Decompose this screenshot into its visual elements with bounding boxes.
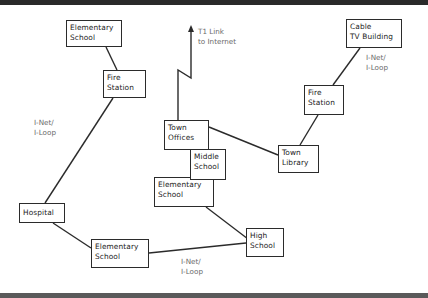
t1-link-line [178,30,191,120]
node-town-offices: TownOffices [164,120,209,150]
node-elem-bottom: ElementarySchool [91,239,149,268]
label-inet-bottom: I-Net/I-Loop [181,257,203,277]
node-label: Hospital [23,208,61,218]
node-label: Fire [308,88,340,98]
link-elem-top-fire-left [106,47,117,70]
node-label: Elementary [158,180,210,190]
label-line: I-Net/ [181,257,203,267]
label-line: I-Loop [366,63,388,73]
label-line: I-Loop [34,128,56,138]
arrow-up-icon [188,25,194,32]
node-fire-left: FireStation [103,70,146,98]
node-label: School [95,252,145,262]
node-label: Station [107,83,142,93]
node-high-school: HighSchool [246,228,284,257]
node-label: TV Building [350,32,398,42]
link-fire-left-hospital [45,98,113,203]
label-line: to Internet [198,37,236,47]
node-hospital: Hospital [19,203,65,223]
node-label: Offices [168,133,205,143]
node-cable-tv: CableTV Building [346,19,402,48]
node-label: Elementary [70,23,118,33]
link-elem-center-high-school [206,207,248,239]
node-label: Library [282,158,315,168]
node-label: Middle [194,152,222,162]
node-elem-top: ElementarySchool [66,20,122,47]
label-t1-link: T1 Linkto Internet [198,27,236,47]
node-elem-center: ElementarySchool [154,177,214,207]
label-line: T1 Link [198,27,236,37]
link-town-library-fire-right [300,115,318,145]
node-label: Town [282,148,315,158]
label-inet-right: I-Net/I-Loop [366,53,388,73]
node-label: Town [168,123,205,133]
node-label: Station [308,98,340,108]
node-label: School [194,162,222,172]
label-inet-left: I-Net/I-Loop [34,118,56,138]
node-town-library: TownLibrary [278,145,319,173]
label-line: I-Net/ [34,118,56,128]
link-fire-right-cable-tv [333,48,360,85]
node-label: Cable [350,22,398,32]
node-label: High [250,231,280,241]
link-elem-bottom-high-school [149,243,246,253]
node-label: Fire [107,73,142,83]
node-fire-right: FireStation [304,85,344,115]
link-hospital-elem-bottom [53,223,91,248]
label-line: I-Net/ [366,53,388,63]
label-line: I-Loop [181,267,203,277]
node-label: School [250,241,280,251]
node-label: School [158,190,210,200]
bottom-border [0,293,428,298]
node-label: School [70,33,118,43]
node-middle-school: MiddleSchool [190,149,226,180]
node-label: Elementary [95,242,145,252]
